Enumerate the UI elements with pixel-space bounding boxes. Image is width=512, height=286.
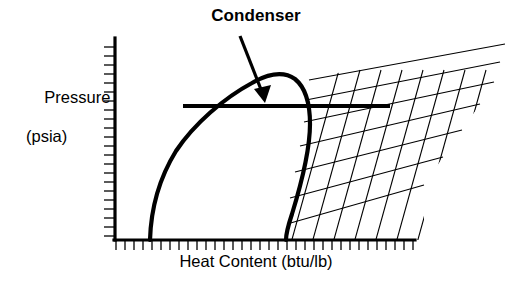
constant-entropy-line [417,70,465,243]
arrow-head-icon [254,85,271,103]
constant-temperature-line [300,104,480,146]
constant-entropy-line [354,70,402,243]
constant-entropy-lines [291,70,486,243]
ph-diagram-figure: Condenser Pressure (psia) Heat Content (… [0,0,512,286]
y-axis-label: Pressure (psia) [26,69,110,186]
condenser-arrow [240,36,271,103]
constant-temperature-line [309,44,505,80]
constant-temperature-line [304,82,494,122]
x-axis-ticks [116,241,413,250]
y-axis-label-line1: Pressure [44,88,110,106]
constant-entropy-line [333,70,381,243]
condenser-annotation-label: Condenser [0,6,512,26]
y-axis-label-line2: (psia) [26,127,110,146]
constant-entropy-line [396,70,444,243]
x-axis-label: Heat Content (btu/lb) [0,252,512,271]
constant-entropy-line [438,70,486,243]
constant-entropy-line [375,70,423,243]
constant-temperature-line [306,62,500,100]
constant-entropy-line [312,70,360,243]
constant-temperature-lines [287,44,505,224]
constant-entropy-line [291,70,339,243]
saturation-dome-curve [150,74,310,240]
